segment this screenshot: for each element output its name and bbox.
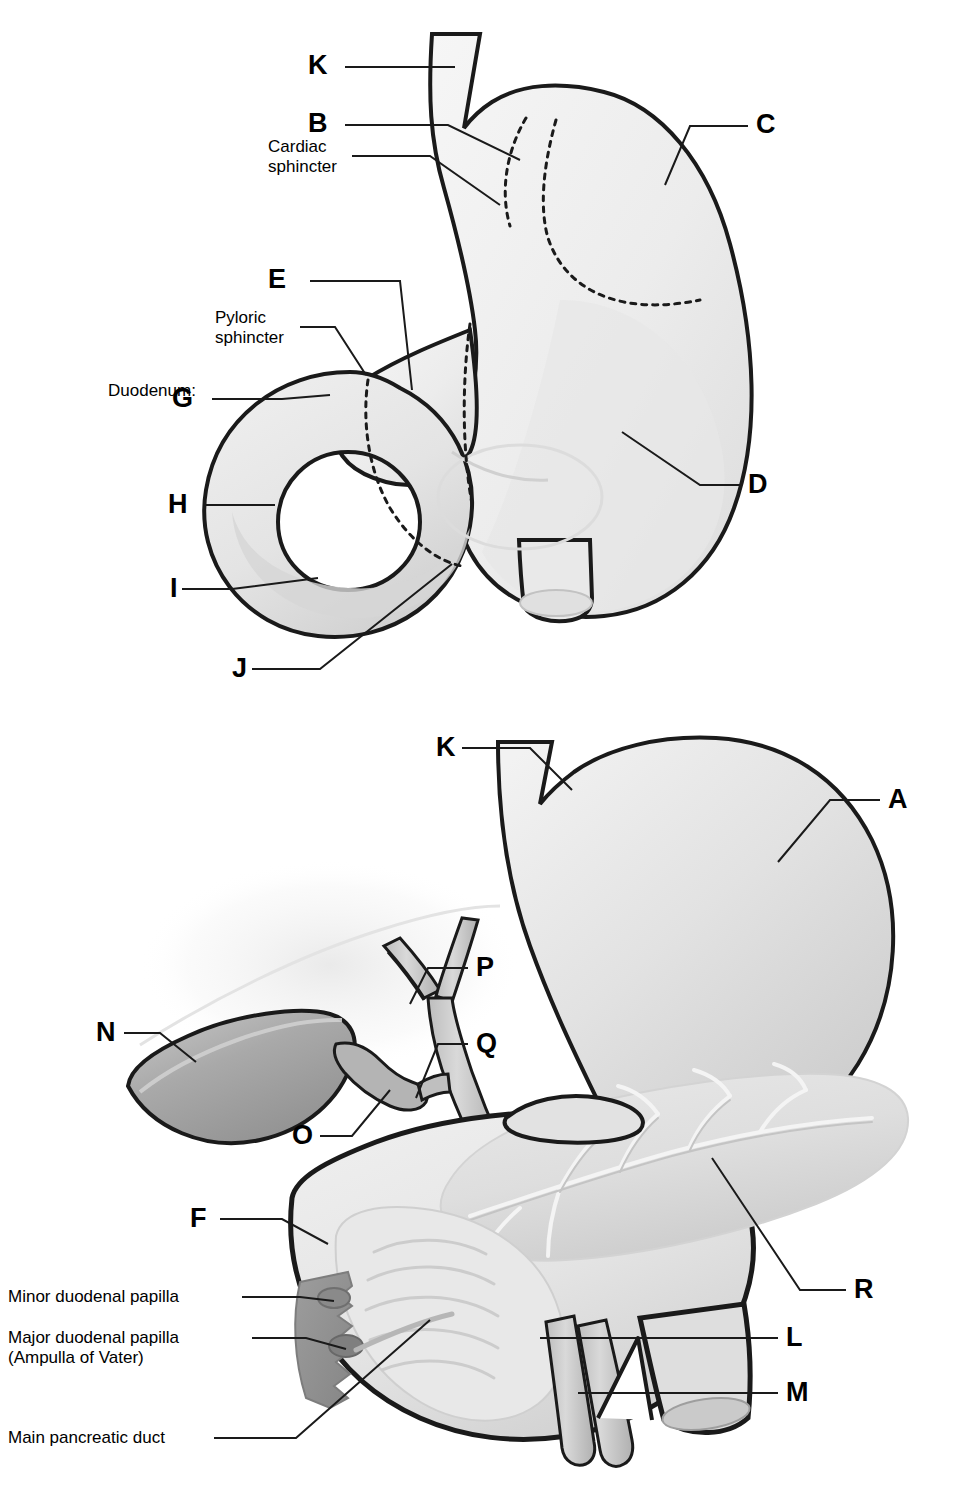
label-O-lower: O — [292, 1122, 313, 1149]
label-Q-lower: Q — [476, 1030, 497, 1057]
jejunum-cut-ellipse — [520, 590, 592, 616]
label-K-upper: K — [308, 52, 328, 79]
leader-pyloric-sphincter — [300, 327, 366, 375]
lower-panel-artwork — [124, 738, 908, 1467]
label-E-upper: E — [268, 266, 286, 293]
label-G-upper: G — [172, 385, 193, 412]
pancreas — [441, 1074, 908, 1261]
label-cardiac-sphincter: Cardiac sphincter — [268, 137, 350, 177]
label-N-lower: N — [96, 1019, 116, 1046]
label-C-upper: C — [756, 111, 776, 138]
label-L-lower: L — [786, 1324, 803, 1351]
label-M-lower: M — [786, 1379, 809, 1406]
label-minor-duodenal-papilla: Minor duodenal papilla — [8, 1287, 179, 1307]
cystic-duct — [418, 1074, 450, 1100]
label-major-duodenal-papilla: Major duodenal papilla (Ampulla of Vater… — [8, 1328, 179, 1368]
label-H-upper: H — [168, 491, 188, 518]
label-A-lower: A — [888, 786, 908, 813]
upper-panel-artwork — [182, 34, 752, 669]
label-I-upper: I — [170, 575, 178, 602]
label-R-lower: R — [854, 1276, 874, 1303]
anatomy-figure — [0, 0, 954, 1497]
pylorus-nub — [505, 1096, 643, 1143]
anatomy-svg — [0, 0, 954, 1497]
label-main-pancreatic-duct: Main pancreatic duct — [8, 1428, 165, 1448]
label-K-lower: K — [436, 734, 456, 761]
minor-duodenal-papilla — [318, 1288, 350, 1308]
label-D-upper: D — [748, 471, 768, 498]
label-B-upper: B — [308, 110, 328, 137]
label-P-lower: P — [476, 954, 494, 981]
label-J-upper: J — [232, 655, 247, 682]
label-pyloric-sphincter: Pyloric sphincter — [215, 308, 299, 348]
label-F-lower: F — [190, 1205, 207, 1232]
